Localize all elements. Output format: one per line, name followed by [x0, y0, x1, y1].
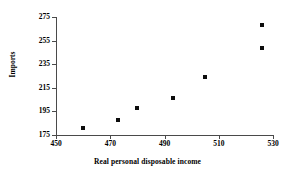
- data-point: [171, 96, 175, 100]
- data-point: [260, 23, 264, 27]
- data-point: [260, 46, 264, 50]
- y-axis-title: Imports: [8, 37, 17, 93]
- scatter-chart: 175195215235255275 450470490510530 Impor…: [0, 0, 295, 175]
- data-points-group: [0, 0, 295, 175]
- data-point: [203, 75, 207, 79]
- data-point: [135, 106, 139, 110]
- data-point: [81, 126, 85, 130]
- x-axis-title: Real personal disposable income: [0, 157, 295, 166]
- data-point: [116, 118, 120, 122]
